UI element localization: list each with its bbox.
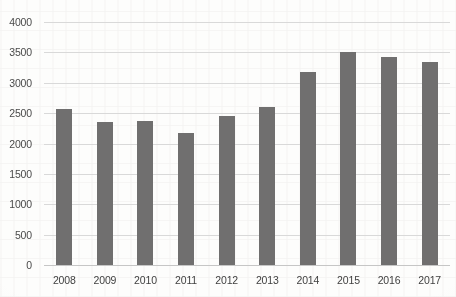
bar-slot [44,22,85,265]
x-tick-label: 2015 [337,274,360,286]
bar-slot [166,22,207,265]
x-tick-slot: 2017 [409,270,450,288]
x-axis-tick-labels: 2008200920102011201220132014201520162017 [44,270,450,288]
bar-chart-figure: 05001000150020002500300035004000 2008200… [0,0,456,297]
y-tick-label: 1000 [0,198,32,210]
bar-slot [85,22,126,265]
x-tick-label: 2013 [256,274,279,286]
x-tick-slot: 2014 [288,270,329,288]
bar-2012 [219,116,235,265]
bar-2016 [381,57,397,265]
x-tick-slot: 2016 [369,270,410,288]
x-tick-slot: 2015 [328,270,369,288]
y-tick-label: 3000 [0,77,32,89]
bar-slot [288,22,329,265]
bar-2015 [340,52,356,265]
bar-slot [409,22,450,265]
bar-slot [247,22,288,265]
x-tick-slot: 2013 [247,270,288,288]
x-tick-label: 2010 [134,274,157,286]
bar-slot [369,22,410,265]
bar-2011 [178,133,194,265]
bar-2017 [422,62,438,265]
y-tick-label: 500 [0,229,32,241]
bar-slot [125,22,166,265]
x-tick-label: 2014 [296,274,319,286]
x-tick-label: 2011 [175,274,197,286]
x-tick-slot: 2012 [206,270,247,288]
bar-2009 [97,122,113,265]
bar-2010 [137,121,153,265]
y-tick-label: 2000 [0,138,32,150]
x-tick-slot: 2008 [44,270,85,288]
x-tick-label: 2017 [418,274,441,286]
bar-2014 [300,72,316,265]
y-tick-label: 3500 [0,46,32,58]
x-tick-label: 2008 [53,274,76,286]
y-tick-label: 0 [0,259,32,271]
bar-slot [206,22,247,265]
x-tick-label: 2009 [94,274,117,286]
x-tick-label: 2012 [215,274,238,286]
x-tick-slot: 2011 [166,270,207,288]
x-tick-slot: 2010 [125,270,166,288]
bar-2013 [259,107,275,265]
y-tick-label: 2500 [0,107,32,119]
gridline-0 [44,265,450,266]
bar-2008 [56,109,72,265]
x-tick-slot: 2009 [85,270,126,288]
plot-area: 05001000150020002500300035004000 [44,22,450,265]
y-tick-label: 1500 [0,168,32,180]
x-tick-label: 2016 [378,274,401,286]
bar-slot [328,22,369,265]
bars-group [44,22,450,265]
y-tick-label: 4000 [0,16,32,28]
